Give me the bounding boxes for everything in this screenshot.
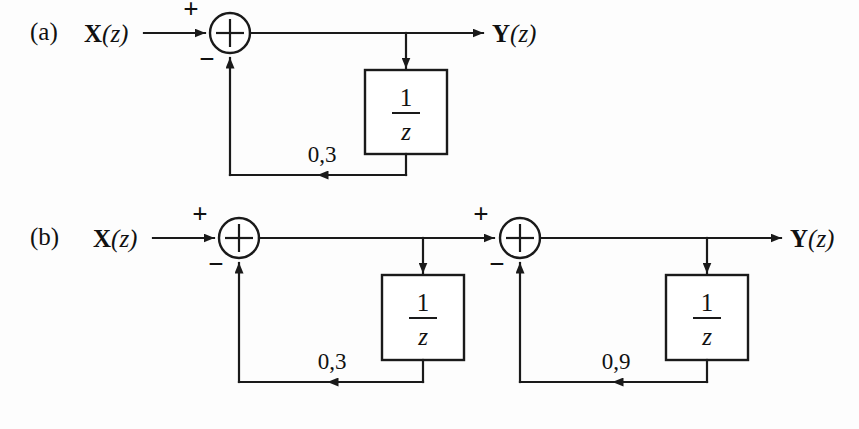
panel-b-delay2-numerator: 1 [701, 289, 714, 316]
panel-b-output-var: Y [790, 225, 808, 252]
panel-a-output-label: Y(z) [492, 20, 536, 48]
panel-b-label: (b) [30, 223, 59, 251]
panel-b-gain-label-1: 0,3 [318, 349, 347, 374]
panel-a-output-var: Y [492, 20, 510, 47]
panel-b: (b) X(z) + − + [30, 199, 834, 382]
panel-b-sum2-minus-sign: − [489, 249, 504, 279]
panel-b-output-arg: (z) [808, 225, 834, 253]
panel-b-gain-label-2: 0,9 [602, 349, 631, 374]
panel-a-sum1-minus-sign: − [199, 44, 214, 74]
panel-b-input-label: X(z) [93, 225, 137, 253]
panel-a-input-label: X(z) [84, 20, 128, 48]
panel-b-delay1-denominator: z [417, 323, 428, 350]
panel-b-sum1-minus-sign: − [208, 249, 223, 279]
panel-a-output-arg: (z) [510, 20, 536, 48]
panel-b-delay1-numerator: 1 [417, 289, 430, 316]
panel-a-input-arg: (z) [102, 20, 128, 48]
panel-a-input-var: X [84, 20, 102, 47]
panel-a-sum1-plus-sign: + [183, 0, 198, 24]
panel-b-delay2-denominator: z [701, 323, 712, 350]
panel-b-input-var: X [93, 225, 111, 252]
panel-a-label: (a) [30, 18, 58, 46]
panel-b-sum1-plus-sign: + [192, 199, 207, 229]
panel-b-sum2-plus-sign: + [473, 199, 488, 229]
panel-a-delay-numerator: 1 [400, 84, 413, 111]
panel-a: (a) X(z) + − Y(z) 1 [30, 0, 536, 175]
panel-b-output-label: Y(z) [790, 225, 834, 253]
panel-a-delay-denominator: z [400, 118, 411, 145]
panel-b-input-arg: (z) [111, 225, 137, 253]
panel-a-gain-label: 0,3 [308, 142, 337, 167]
diagram-canvas: (a) X(z) + − Y(z) 1 [0, 0, 859, 429]
block-diagram-figure: (a) X(z) + − Y(z) 1 [0, 0, 859, 429]
